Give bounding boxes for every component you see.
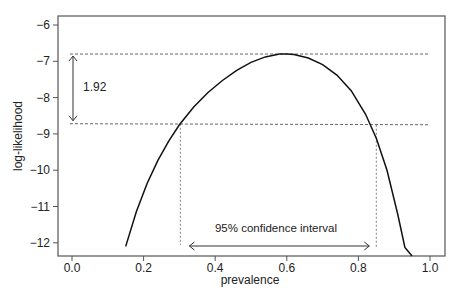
ci-arrow bbox=[189, 242, 369, 250]
x-tick-label: 0.2 bbox=[135, 261, 152, 275]
difference-arrow bbox=[69, 56, 77, 121]
y-axis-label: log-likelihood bbox=[11, 101, 25, 171]
y-tick-label: −10 bbox=[30, 163, 51, 177]
y-tick-label: −12 bbox=[30, 236, 51, 250]
difference-label: 1.92 bbox=[83, 80, 107, 94]
x-tick-label: 1.0 bbox=[422, 261, 439, 275]
y-tick-label: −8 bbox=[36, 91, 50, 105]
ci-label: 95% confidence interval bbox=[215, 222, 337, 234]
y-tick-label: −7 bbox=[36, 54, 50, 68]
plot-frame bbox=[58, 16, 445, 256]
x-tick-label: 0.8 bbox=[350, 261, 367, 275]
cutoff-line bbox=[70, 124, 430, 125]
x-tick-label: 0.6 bbox=[278, 261, 295, 275]
x-axis-label: prevalence bbox=[221, 273, 280, 287]
log-likelihood-chart: −6−7−8−9−10−11−12 0.00.20.40.60.81.0 pre… bbox=[0, 0, 461, 296]
y-tick-label: −11 bbox=[31, 200, 51, 214]
y-axis: −6−7−8−9−10−11−12 bbox=[30, 18, 58, 250]
y-tick-label: −6 bbox=[36, 18, 50, 32]
y-tick-label: −9 bbox=[36, 127, 50, 141]
x-tick-label: 0.0 bbox=[64, 261, 81, 275]
